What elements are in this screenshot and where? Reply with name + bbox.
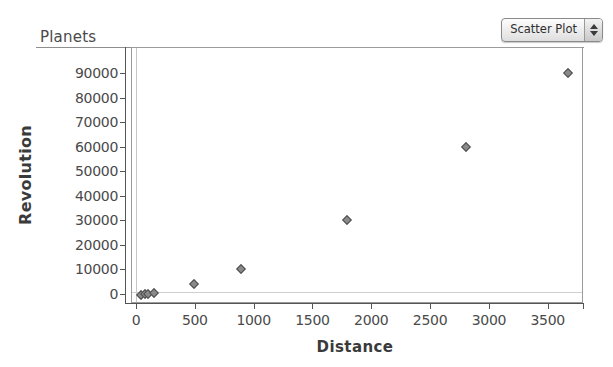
x-axis-tick-label: 0 [132,312,141,328]
y-axis-tick-label: 80000 [75,90,118,106]
x-axis-tick [371,303,372,309]
y-axis-tick [120,245,126,246]
data-point[interactable] [461,142,471,152]
x-axis-tick [548,303,549,309]
x-axis-title: Distance [317,338,394,356]
x-axis-tick-label: 3500 [530,312,564,328]
plot-type-stepper[interactable] [584,19,602,41]
x-axis-tick-label: 2000 [354,312,388,328]
zero-gridline [132,292,582,293]
x-axis-tick-label: 1000 [236,312,270,328]
x-axis-tick-label: 2500 [413,312,447,328]
x-axis-tick [489,303,490,309]
y-axis-tick [120,147,126,148]
y-axis-tick [120,122,126,123]
y-axis-tick-label: 30000 [75,212,118,228]
y-axis-tick [120,269,126,270]
y-axis-tick [120,294,126,295]
x-axis-tick [583,303,584,309]
x-axis-tick [430,303,431,309]
plot-area [131,47,583,303]
y-axis-tick [120,220,126,221]
y-axis-title: Revolution [16,125,35,225]
y-axis-tick-label: 70000 [75,114,118,130]
y-axis-tick-label: 60000 [75,139,118,155]
y-axis-line [125,47,126,304]
y-axis-tick [120,73,126,74]
y-axis-tick [120,98,126,99]
x-axis-tick-label: 500 [182,312,208,328]
plot-type-value[interactable]: Scatter Plot [502,19,584,41]
y-axis-tick [120,196,126,197]
triangle-up-icon[interactable] [590,24,598,29]
y-axis-tick [120,171,126,172]
x-axis-tick-label: 1500 [295,312,329,328]
data-point[interactable] [342,215,352,225]
x-axis-tick-label: 3000 [472,312,506,328]
x-axis-tick [312,303,313,309]
x-axis-tick [195,303,196,309]
x-axis-tick [254,303,255,309]
data-point[interactable] [189,279,199,289]
y-axis-tick-label: 90000 [75,65,118,81]
data-point[interactable] [149,288,159,298]
plot-inner-border [136,48,137,302]
plot-type-dropdown[interactable]: Scatter Plot [501,18,603,42]
y-axis-tick-label: 40000 [75,188,118,204]
data-point[interactable] [236,264,246,274]
y-axis-tick-label: 0 [109,286,118,302]
triangle-down-icon[interactable] [590,31,598,36]
x-axis-tick [136,303,137,309]
data-point[interactable] [563,68,573,78]
y-axis-tick-label: 50000 [75,163,118,179]
scatter-plot-app: Planets Scatter Plot Revolution Distance… [0,0,613,367]
y-axis-tick-labels: 0100002000030000400005000060000700008000… [48,0,118,367]
y-axis-tick-label: 10000 [75,261,118,277]
y-axis-tick-label: 20000 [75,237,118,253]
